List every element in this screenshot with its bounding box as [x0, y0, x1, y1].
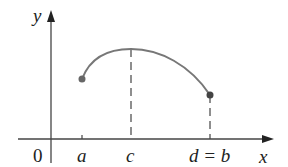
diagram-canvas: y x 0 a c d = b: [0, 0, 288, 167]
tick-label-d-equals-b: d = b: [189, 145, 230, 166]
endpoint-left-dot: [79, 76, 86, 83]
x-axis-arrow-icon: [262, 135, 274, 143]
tick-label-c: c: [126, 145, 135, 166]
endpoint-right-dot: [207, 92, 214, 99]
function-curve: [82, 49, 210, 95]
y-axis-arrow-icon: [47, 10, 55, 22]
x-axis-label: x: [258, 146, 268, 167]
tick-label-a: a: [77, 145, 87, 166]
origin-label: 0: [33, 145, 43, 166]
y-axis-label: y: [31, 5, 42, 26]
